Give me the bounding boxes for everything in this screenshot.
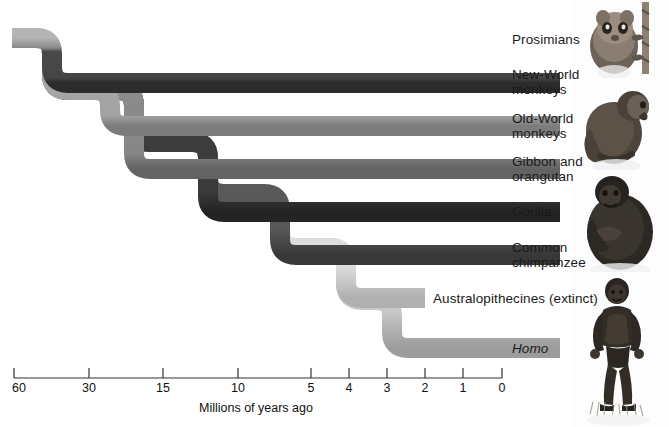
tree-branches xyxy=(0,0,669,427)
axis-tick-label-10: 10 xyxy=(231,381,245,395)
branch-gibbon-and-orangutan xyxy=(12,38,560,169)
taxon-label-old-world-monkeys: Old-World monkeys xyxy=(512,111,573,141)
taxon-label-prosimians: Prosimians xyxy=(512,32,580,47)
phylogenetic-tree-figure: Prosimians New-World monkeys Old-World m… xyxy=(0,0,669,427)
axis-tick-label-2: 2 xyxy=(422,381,429,395)
taxon-label-gorilla: Gorilla xyxy=(512,204,552,219)
taxon-label-homo: Homo xyxy=(512,341,548,356)
taxon-label-new-world-monkeys: New-World monkeys xyxy=(512,67,579,97)
taxon-label-common-chimpanzee: Common chimpanzee xyxy=(512,240,586,270)
axis-tick-label-3: 3 xyxy=(384,381,391,395)
axis-title: Millions of years ago xyxy=(199,401,313,415)
branch-common-chimpanzee xyxy=(12,38,560,255)
axis-tick-label-60: 60 xyxy=(12,381,26,395)
axis-tick-label-5: 5 xyxy=(308,381,315,395)
axis-tick-label-15: 15 xyxy=(156,381,170,395)
taxon-label-gibbon-and-orangutan: Gibbon and orangutan xyxy=(512,154,583,184)
axis-tick-label-4: 4 xyxy=(346,381,353,395)
axis-tick-label-0: 0 xyxy=(499,381,506,395)
axis-tick-label-1: 1 xyxy=(460,381,467,395)
taxon-label-australopithecines: Australopithecines (extinct) xyxy=(433,291,598,306)
axis-tick-label-30: 30 xyxy=(82,381,96,395)
